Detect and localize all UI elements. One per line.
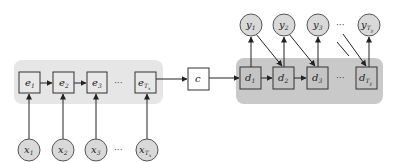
- output-yTy: yTy: [358, 14, 380, 36]
- encoder-ellipsis: ···: [114, 78, 123, 88]
- decoder-state-d1: d1: [240, 67, 261, 89]
- decoder-state-dTy: dTy: [356, 67, 377, 89]
- input-ellipsis: ···: [114, 145, 123, 155]
- input-xTx: xTx: [136, 139, 158, 161]
- decoder-state-d2: d2: [273, 67, 294, 89]
- decoder-state-d3: d3: [307, 67, 328, 89]
- input-x1: x1: [18, 139, 40, 161]
- output-y3: y3: [307, 14, 329, 36]
- seq2seq-diagram: e1 e2 e3 ··· eTx c d1 d2 d3 ··· dTy x1: [0, 0, 396, 162]
- encoder-state-e2: e2: [53, 72, 74, 93]
- output-y1: y1: [240, 14, 262, 36]
- encoder-state-e1: e1: [19, 72, 40, 93]
- svg-text:c: c: [195, 73, 201, 84]
- input-x3: x3: [85, 139, 107, 161]
- output-y2: y2: [273, 14, 295, 36]
- output-ellipsis: ···: [336, 20, 345, 30]
- encoder-state-e3: e3: [87, 72, 107, 93]
- input-x2: x2: [52, 139, 74, 161]
- context-vector-c: c: [188, 68, 209, 90]
- encoder-state-eTx: eTx: [135, 72, 156, 93]
- decoder-ellipsis: ···: [336, 73, 345, 83]
